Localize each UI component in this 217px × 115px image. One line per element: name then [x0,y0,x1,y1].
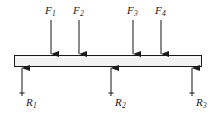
load-arrows [51,20,161,54]
reaction-arrows [19,68,194,96]
load-label-F4: F4 [155,5,166,18]
load-label-F1-subscript: 1 [52,9,56,18]
load-label-F4-letter: F [155,4,162,16]
beam-body [15,56,202,67]
load-label-F2-letter: F [73,4,80,16]
reaction-label-R2: R2 [115,97,126,110]
beam-free-body-diagram: F1 F2 F3 F4 R1 R2 R3 [0,0,217,115]
reaction-label-R1-subscript: 1 [33,101,37,110]
reaction-label-R1: R1 [26,97,37,110]
load-label-F3: F3 [127,5,138,18]
reaction-label-R3: R3 [196,97,207,110]
load-label-F3-subscript: 3 [134,9,138,18]
reaction-label-R3-letter: R [196,96,203,108]
load-label-F1-letter: F [45,4,52,16]
reaction-label-R1-letter: R [26,96,33,108]
load-label-F4-subscript: 4 [162,9,166,18]
load-label-F2: F2 [73,5,84,18]
reaction-label-R3-subscript: 3 [203,101,207,110]
load-label-F2-subscript: 2 [80,9,84,18]
reaction-label-R2-letter: R [115,96,122,108]
reaction-label-R2-subscript: 2 [122,101,126,110]
load-label-F3-letter: F [127,4,134,16]
load-label-F1: F1 [45,5,56,18]
